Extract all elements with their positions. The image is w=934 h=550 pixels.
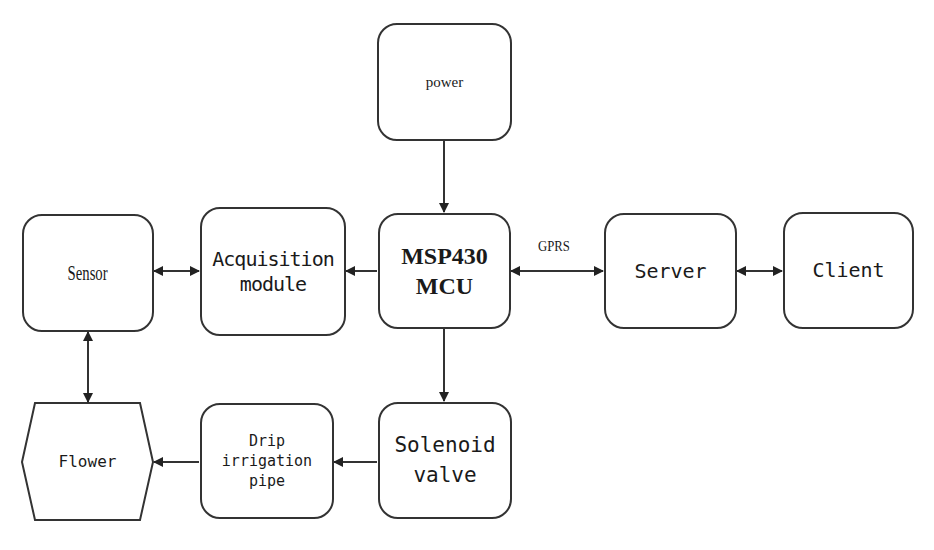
node-sensor: Sensor: [22, 214, 154, 332]
node-drip-irrigation-pipe: Drip irrigation pipe: [200, 403, 334, 519]
node-server-label: Server: [634, 259, 706, 284]
gprs-label: GPRS: [538, 238, 570, 255]
node-server: Server: [604, 213, 737, 329]
node-power: power: [377, 23, 512, 141]
node-solenoid-label: Solenoid valve: [394, 431, 495, 490]
node-mcu-label: MSP430 MCU: [401, 241, 488, 301]
node-acquisition-label: Acquisition module: [212, 247, 333, 297]
node-mcu: MSP430 MCU: [378, 213, 511, 329]
node-client: Client: [783, 212, 914, 329]
node-acquisition-module: Acquisition module: [200, 207, 346, 336]
node-client-label: Client: [812, 258, 884, 283]
node-solenoid-valve: Solenoid valve: [378, 402, 512, 519]
node-drip-label: Drip irrigation pipe: [222, 431, 312, 492]
node-flower: Flower: [22, 403, 153, 520]
node-sensor-label: Sensor: [68, 260, 108, 286]
block-diagram: GPRS power Sensor Acquisition module MSP…: [0, 0, 934, 550]
node-flower-label: Flower: [59, 452, 117, 471]
node-power-label: power: [426, 73, 464, 92]
